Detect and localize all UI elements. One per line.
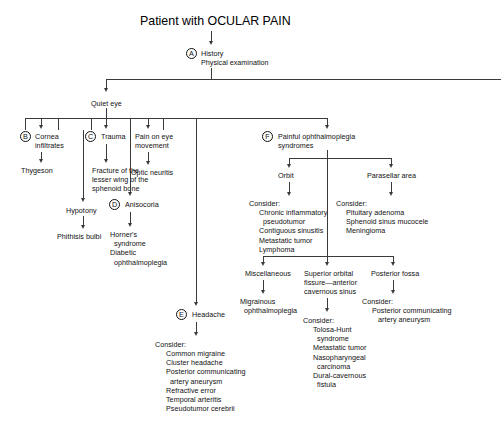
arrowhead-orbit-consider <box>287 192 291 196</box>
node-anisocoria-causes: Horner's syndrome Diabetic ophthalmopleg… <box>110 230 167 267</box>
node-thygeson: Thygeson <box>21 166 53 175</box>
node-anisocoria: Anisocoria <box>125 200 159 209</box>
step-marker-f: F <box>262 131 273 142</box>
connector-c-to-fracture <box>106 144 107 160</box>
arrowhead-pf-consider <box>391 290 395 294</box>
arrowhead-parasellar <box>389 164 393 168</box>
node-superior-orbital-fissure: Superior orbital fissure—anterior cavern… <box>304 269 357 297</box>
connector-quiet-eye-to-bus2 <box>106 108 107 118</box>
arrowhead-phithisis <box>81 225 85 229</box>
divider-col-3 <box>91 118 92 130</box>
node-posterior-fossa: Posterior fossa <box>371 269 419 278</box>
arrowhead-parasellar-consider <box>389 192 393 196</box>
divider-col-2 <box>58 118 59 130</box>
step-marker-d: D <box>109 199 120 210</box>
connector-to-anisocoria <box>130 130 131 194</box>
step-marker-a: A <box>186 48 197 59</box>
label-headache-consider: Consider: <box>155 340 186 349</box>
step-marker-c: C <box>85 131 96 142</box>
node-pain-on-eye-movement: Pain on eye movement <box>135 132 173 150</box>
connector-thygeson-to-hypotony <box>83 130 84 200</box>
list-parasellar-consider: Pituitary adenoma Sphenoid sinus mucocel… <box>346 208 428 236</box>
arrowhead-pain <box>146 125 150 129</box>
arrowhead-posterior-fossa <box>391 262 395 266</box>
step-marker-e: E <box>176 309 187 320</box>
bus-lower-f <box>263 256 393 257</box>
node-miscellaneous: Miscellaneous <box>245 269 291 278</box>
node-optic-neuritis: Optic neuritis <box>131 168 173 177</box>
node-migrainous-ophthalmoplegia: Migrainous ophthalmoplegia <box>240 297 297 315</box>
divider-col-5 <box>163 118 164 130</box>
arrowhead-migrainous <box>261 290 265 294</box>
bus-branch-horizontal <box>25 118 328 119</box>
node-headache: Headache <box>192 310 225 319</box>
label-orbit-consider: Consider: <box>249 199 280 208</box>
list-sof-consider: Tolosa-Hunt syndrome Metastatic tumor Na… <box>313 325 366 389</box>
arrowhead-miscellaneous <box>261 262 265 266</box>
page-title: Patient with OCULAR PAIN <box>140 14 291 28</box>
flowchart-canvas: Patient with OCULAR PAIN A History Physi… <box>0 0 501 429</box>
arrowhead-optic-neuritis <box>146 161 150 165</box>
connector-a-to-bus <box>211 68 212 79</box>
connector-f-trunk-down <box>327 150 328 256</box>
node-hypotony: Hypotony <box>66 206 97 215</box>
arrowhead-sof-consider <box>325 308 329 312</box>
arrowhead-headache-consider <box>194 332 198 336</box>
arrowhead-b <box>39 125 43 129</box>
node-physical-examination: Physical examination <box>201 58 269 67</box>
arrowhead-title-to-a <box>209 41 213 45</box>
arrowhead-f <box>325 125 329 129</box>
list-headache-consider: Common migraine Cluster headache Posteri… <box>166 349 246 413</box>
node-history: History <box>201 49 223 58</box>
list-pf-consider: Posterior communicating artery aneurysm <box>372 306 452 324</box>
bus-orbit-parasellar <box>289 158 391 159</box>
node-parasellar-area: Parasellar area <box>367 171 416 180</box>
divider-col-4 <box>130 118 131 130</box>
arrowhead-fracture <box>104 159 108 163</box>
divider-col-6 <box>196 118 197 130</box>
arrowhead-anisocoria-list <box>128 223 132 227</box>
arrowhead-c <box>104 125 108 129</box>
connector-to-headache <box>196 130 197 304</box>
arrowhead-hypotony <box>81 198 85 202</box>
arrowhead-anisocoria <box>128 192 132 196</box>
step-marker-b: B <box>20 131 31 142</box>
arrowhead-sof <box>325 262 329 266</box>
node-painful-ophthalmoplegia: Painful ophthalmoplegia syndromes <box>278 132 355 150</box>
label-sof-consider: Consider: <box>303 316 334 325</box>
list-orbit-consider: Chronic inflammatory pseudotumor Contigu… <box>259 208 327 254</box>
arrowhead-thygeson <box>39 159 43 163</box>
bus-top-horizontal <box>106 79 501 80</box>
divider-col-1 <box>25 118 26 130</box>
label-parasellar-consider: Consider: <box>336 199 367 208</box>
node-quiet-eye: Quiet eye <box>91 99 122 108</box>
node-cornea-infiltrates: Cornea infiltrates <box>35 132 64 150</box>
arrowhead-headache <box>194 302 198 306</box>
node-phithisis-bulbi: Phithisis bulbi <box>57 232 101 241</box>
arrowhead-quiet-eye <box>104 88 108 92</box>
arrowhead-orbit <box>287 164 291 168</box>
node-orbit: Orbit <box>278 171 294 180</box>
node-trauma: Trauma <box>101 132 126 141</box>
label-pf-consider: Consider: <box>362 297 393 306</box>
